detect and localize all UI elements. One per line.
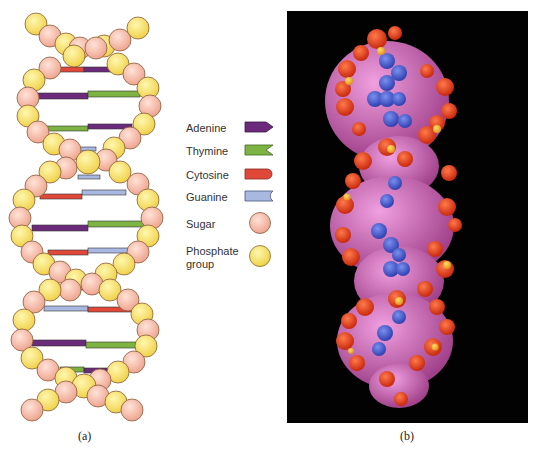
caption-b: (b)	[400, 429, 414, 444]
legend-label-guanine: Guanine	[186, 191, 228, 204]
backbone-left-strand	[9, 13, 163, 421]
caption-a: (a)	[78, 429, 91, 444]
dna-schematic-diagram	[0, 0, 180, 425]
legend-label-phosphate-line2: group	[186, 258, 214, 271]
cytosine-rounded-icon	[244, 168, 274, 180]
legend-label-sugar: Sugar	[186, 218, 215, 231]
adenine-pentagon-icon	[244, 121, 274, 133]
sugar-sphere-icon	[248, 211, 272, 235]
legend-label-phosphate-line1: Phosphate	[186, 245, 239, 258]
legend-label-cytosine: Cytosine	[186, 169, 229, 182]
phosphate-sphere-icon	[248, 244, 272, 268]
thymine-notch-icon	[244, 144, 274, 156]
base-pairs	[32, 67, 144, 373]
guanine-concave-icon	[244, 190, 274, 202]
space-filling-model	[287, 11, 528, 423]
legend-label-thymine: Thymine	[186, 145, 228, 158]
dna-space-filling-photo	[287, 11, 528, 423]
legend-label-adenine: Adenine	[186, 122, 226, 135]
